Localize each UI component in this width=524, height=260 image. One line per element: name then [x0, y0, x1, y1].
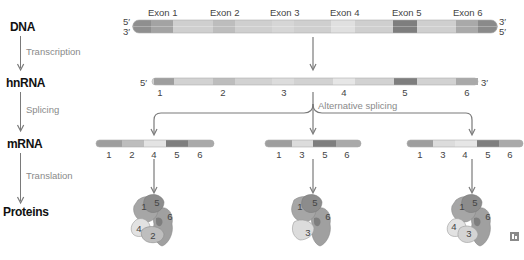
protein1-part-label: 5 [150, 197, 164, 208]
mrna2-exon-number: 3 [295, 149, 309, 160]
mrna3-exon-number: 5 [481, 149, 495, 160]
dna-bar [133, 20, 498, 33]
dna-left-bottom-end: 3′ [123, 27, 130, 36]
mrna1-exon-number: 5 [170, 149, 184, 160]
protein2-part-label: 6 [321, 211, 335, 222]
mrna-bar-1 [96, 140, 214, 147]
protein3-part-label: 1 [455, 201, 469, 212]
protein2-part-label: 5 [308, 197, 322, 208]
protein1-part-label: 6 [163, 211, 177, 222]
mrna1-exon-number: 2 [125, 149, 139, 160]
mrna2-exon-number: 1 [272, 149, 286, 160]
mrna3-exon-number: 6 [503, 149, 517, 160]
mrna1-exon-number: 6 [193, 149, 207, 160]
dna-right-top-end: 3′ [499, 17, 506, 26]
hnrna-exon-number-4: 4 [337, 87, 351, 98]
diagram-graphics [0, 0, 524, 260]
protein2-part-label: 3 [301, 227, 315, 238]
mrna-bar-3 [407, 140, 523, 147]
protein3-part-label: 4 [447, 221, 461, 232]
hnrna-3prime-end: 3′ [481, 78, 488, 87]
corner-logo-icon [510, 232, 519, 241]
exon-label-4: Exon 4 [330, 7, 360, 18]
hnrna-5prime-end: 5′ [140, 78, 147, 87]
dna-right-bottom-end: 5′ [499, 27, 506, 36]
hnrna-bar [152, 78, 478, 85]
mrna1-exon-number: 1 [102, 149, 116, 160]
mrna1-exon-number: 4 [147, 149, 161, 160]
hnrna-exon-number-5: 5 [398, 87, 412, 98]
mrna3-exon-number: 3 [436, 149, 450, 160]
protein3-part-label: 3 [462, 228, 476, 239]
hnrna-exon-number-6: 6 [460, 87, 474, 98]
hnrna-exon-number-1: 1 [153, 87, 167, 98]
exon-label-1: Exon 1 [148, 7, 178, 18]
mrna-bar-2 [265, 140, 361, 147]
protein2-part-label: 1 [293, 201, 307, 212]
protein3-part-label: 5 [468, 197, 482, 208]
exon-label-5: Exon 5 [392, 7, 422, 18]
exon-label-6: Exon 6 [453, 7, 483, 18]
alternative-splicing-label: Alternative splicing [318, 100, 397, 111]
protein1-part-label: 2 [146, 230, 160, 241]
protein1-part-label: 1 [137, 201, 151, 212]
exon-label-3: Exon 3 [270, 7, 300, 18]
exon-label-2: Exon 2 [210, 7, 240, 18]
dna-left-top-end: 5′ [123, 17, 130, 26]
mrna2-exon-number: 6 [340, 149, 354, 160]
hnrna-exon-number-3: 3 [277, 87, 291, 98]
mrna2-exon-number: 5 [318, 149, 332, 160]
hnrna-exon-number-2: 2 [216, 87, 230, 98]
mrna3-exon-number: 1 [413, 149, 427, 160]
mrna3-exon-number: 4 [458, 149, 472, 160]
protein3-part-label: 6 [481, 211, 495, 222]
protein1-part-label: 4 [132, 223, 146, 234]
